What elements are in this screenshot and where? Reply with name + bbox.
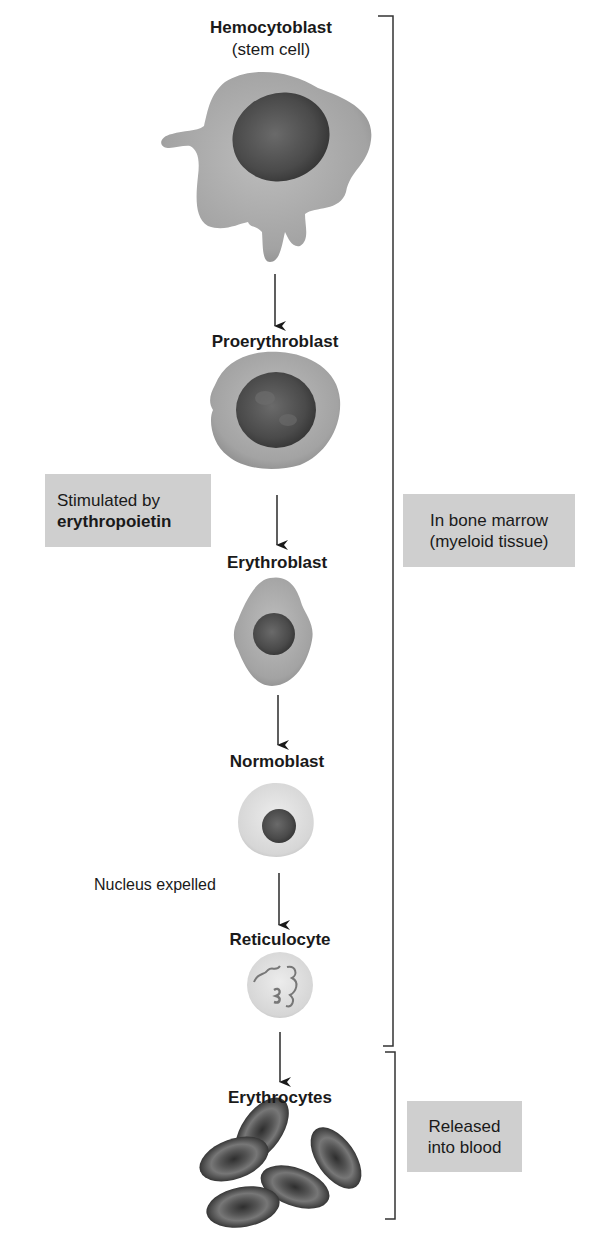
stage-label-reticulocyte: Reticulocyte: [229, 930, 330, 950]
hemocytoblast-cell: [161, 72, 371, 262]
bone-marrow-line2: (myeloid tissue): [429, 531, 548, 552]
stage-label-erythroblast: Erythroblast: [227, 553, 327, 573]
erythropoietin-note: Stimulated by erythropoietin: [45, 474, 211, 547]
bone-marrow-line1: In bone marrow: [430, 510, 548, 531]
diagram-graphics: [0, 0, 593, 1235]
blood-box: Released into blood: [407, 1101, 522, 1172]
erythrocytes-cells: [193, 1088, 371, 1233]
bone-marrow-bracket: [378, 16, 393, 1046]
stage-subtitle-hemocytoblast: (stem cell): [232, 40, 310, 60]
nucleus-expelled-note: Nucleus expelled: [94, 876, 216, 894]
stimulus-line1: Stimulated by: [57, 490, 211, 511]
stage-label-erythrocytes: Erythrocytes: [228, 1088, 332, 1108]
proerythroblast-cell: [210, 352, 340, 469]
erythroblast-cell: [234, 577, 313, 686]
stimulus-line2: erythropoietin: [57, 511, 211, 532]
stage-label-proerythroblast: Proerythroblast: [212, 332, 339, 352]
blood-bracket: [385, 1052, 395, 1219]
reticulocyte-cell: [247, 952, 313, 1018]
stage-label-normoblast: Normoblast: [230, 752, 324, 772]
stage-label-hemocytoblast: Hemocytoblast: [210, 18, 332, 38]
blood-line2: into blood: [428, 1137, 502, 1158]
bone-marrow-box: In bone marrow (myeloid tissue): [403, 494, 575, 567]
normoblast-cell: [238, 783, 314, 857]
blood-line1: Released: [429, 1116, 501, 1137]
